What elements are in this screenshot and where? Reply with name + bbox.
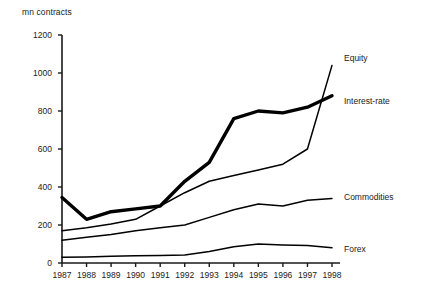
y-tick-label: 400	[18, 182, 52, 192]
y-tick-label: 800	[18, 106, 52, 116]
series-label-interest-rate: Interest-rate	[344, 96, 390, 106]
y-tick-label: 200	[18, 220, 52, 230]
y-tick-label: 1200	[18, 30, 52, 40]
series-line-equity	[62, 65, 332, 230]
y-tick-label: 600	[18, 144, 52, 154]
chart-container: mn contracts 020040060080010001200 19871…	[0, 0, 426, 293]
series-label-equity: Equity	[344, 53, 368, 63]
y-tick-label: 0	[18, 258, 52, 268]
y-tick-label: 1000	[18, 68, 52, 78]
series-line-interest-rate	[62, 96, 332, 220]
chart-series	[62, 65, 332, 257]
series-line-commodities	[62, 198, 332, 240]
series-label-forex: Forex	[344, 244, 366, 254]
series-line-forex	[62, 244, 332, 257]
series-label-commodities: Commodities	[344, 192, 394, 202]
chart-axes	[58, 35, 340, 267]
x-tick-label: 1998	[315, 270, 349, 280]
